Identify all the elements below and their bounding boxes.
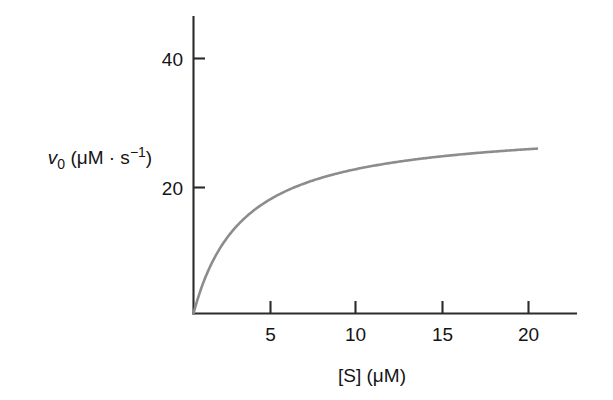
y-axis-title-close: ) (146, 147, 152, 168)
y-axis-title-exponent: −1 (130, 144, 146, 160)
y-tick-label-40: 40 (162, 49, 183, 70)
y-axis-title-subscript: 0 (57, 156, 65, 172)
x-tick-label-20: 20 (518, 324, 539, 345)
x-tick-label-10: 10 (345, 324, 366, 345)
y-tick-label-20: 20 (162, 178, 183, 199)
y-axis-title-units: (μM · s (65, 147, 130, 168)
x-tick-label-5: 5 (265, 324, 276, 345)
x-axis-title: [S] (μM) (338, 365, 406, 386)
michaelis-menten-chart: 40 20 5 10 15 20 v0 (μM · s−1) [S] (μM) (0, 0, 613, 400)
chart-figure: 40 20 5 10 15 20 v0 (μM · s−1) [S] (μM) (0, 0, 613, 400)
x-tick-label-15: 15 (432, 324, 453, 345)
